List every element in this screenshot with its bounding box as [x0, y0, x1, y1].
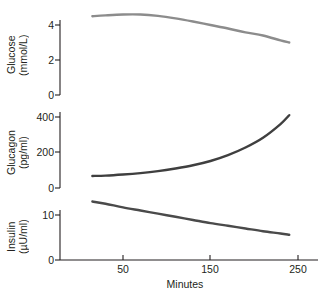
glucagon-data-line [92, 115, 289, 176]
insulin-data-line [92, 202, 289, 235]
panel-glucagon: Glucagon (pg/ml) 400 200 0 [0, 105, 328, 198]
x-tick-150: 150 [190, 264, 230, 275]
x-tick-250: 250 [278, 264, 318, 275]
glucagon-y-axis [55, 112, 60, 188]
glucose-y-axis [55, 20, 60, 95]
x-tick-50: 50 [103, 264, 143, 275]
glucagon-plot-area [0, 105, 328, 198]
figure-root: Glucose (mmol/L) 4 2 0 Glucagon (pg/ml) … [0, 0, 328, 294]
x-axis-title: Minutes [130, 279, 240, 290]
panel-insulin: Insulin (µU/ml) 10 0 50 150 250 Minutes [0, 198, 328, 294]
insulin-x-axis [60, 255, 318, 260]
insulin-y-axis [55, 210, 60, 260]
glucose-plot-area [0, 0, 328, 105]
panel-glucose: Glucose (mmol/L) 4 2 0 [0, 0, 328, 105]
glucose-data-line [92, 14, 289, 42]
